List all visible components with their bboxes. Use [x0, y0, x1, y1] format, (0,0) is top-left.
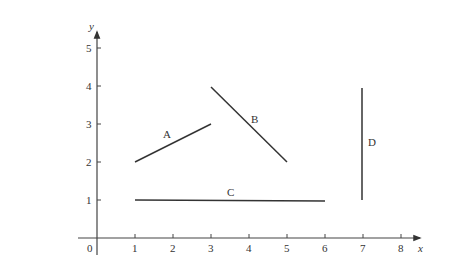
x-axis-label: x	[417, 242, 423, 254]
x-tick-label: 1	[132, 242, 138, 254]
origin-label: 0	[87, 242, 93, 254]
segment-d-label: D	[368, 136, 376, 148]
y-tick-label: 5	[86, 42, 92, 54]
segment-c-label: C	[227, 186, 234, 198]
x-tick-label: 6	[322, 242, 328, 254]
segment-a	[135, 124, 211, 162]
y-tick-label: 3	[86, 118, 92, 130]
x-tick-label: 5	[284, 242, 290, 254]
segment-diagram: 0 1 2 3 4 5 6 7 8 x 1 2 3 4 5 y A B C D	[0, 0, 452, 271]
segment-b-label: B	[251, 113, 258, 125]
y-tick-label: 4	[86, 80, 92, 92]
y-tick-label: 2	[86, 156, 92, 168]
x-tick-label: 4	[246, 242, 252, 254]
segment-c	[135, 200, 325, 201]
segment-a-label: A	[163, 128, 171, 140]
x-tick-label: 7	[360, 242, 366, 254]
x-tick-label: 8	[398, 242, 404, 254]
x-tick-label: 2	[170, 242, 176, 254]
segment-b	[211, 87, 287, 162]
y-tick-label: 1	[86, 194, 92, 206]
y-axis-label: y	[88, 20, 94, 32]
x-tick-label: 3	[208, 242, 214, 254]
